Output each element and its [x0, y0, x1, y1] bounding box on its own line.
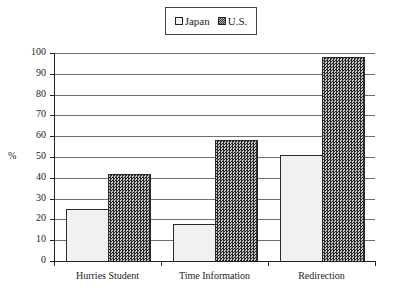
y-tick-label: 100: [20, 46, 46, 57]
bar-japan: [280, 155, 323, 262]
bar-us: [215, 140, 258, 262]
y-tick-label: 80: [20, 88, 46, 99]
y-axis-title: %: [8, 150, 16, 161]
y-tick-label: 10: [20, 233, 46, 244]
y-tick-label: 50: [20, 150, 46, 161]
x-tick-label: Hurries Student: [54, 270, 161, 281]
x-tick: [161, 261, 162, 266]
x-tick: [375, 261, 376, 266]
x-tick: [268, 261, 269, 266]
y-tick-label: 60: [20, 129, 46, 140]
gridline: [54, 53, 375, 54]
y-tick-label: 70: [20, 108, 46, 119]
y-tick-label: 20: [20, 212, 46, 223]
y-tick-label: 90: [20, 67, 46, 78]
x-tick-label: Redirection: [268, 270, 375, 281]
x-tick: [54, 261, 55, 266]
y-tick-label: 30: [20, 192, 46, 203]
y-tick-label: 40: [20, 171, 46, 182]
bar-japan: [173, 224, 216, 262]
bar-us: [108, 174, 151, 262]
x-tick-label: Time Information: [161, 270, 268, 281]
bar-chart: % 0102030405060708090100 Hurries Student…: [0, 0, 396, 297]
bar-us: [322, 57, 365, 262]
y-tick-label: 0: [20, 254, 46, 265]
bar-japan: [66, 209, 109, 262]
x-axis: [54, 261, 375, 262]
y-axis: [54, 53, 55, 262]
